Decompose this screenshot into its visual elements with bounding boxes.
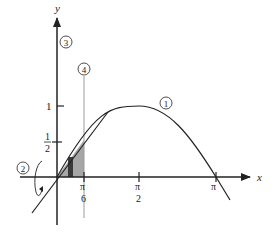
x-tick-label-pi2-den: 2 (136, 193, 141, 204)
x-tick-label-pi2-num: π (135, 181, 140, 192)
line-y-equals-x (32, 112, 108, 213)
callout-2: 2 (17, 162, 29, 174)
y-tick-label-half-num: 1 (45, 131, 50, 142)
svg-text:4: 4 (82, 65, 87, 75)
y-tick-label-1: 1 (46, 100, 52, 112)
y-tick-label-half-den: 2 (45, 143, 50, 154)
svg-text:3: 3 (64, 38, 69, 48)
x-tick-label-pi6-den: 6 (81, 193, 86, 204)
svg-text:2: 2 (21, 164, 26, 174)
diagram-svg: x y 1 1 2 π 6 π 2 π 1 2 3 4 (0, 0, 275, 235)
x-axis-label: x (256, 171, 262, 183)
x-tick-label-pi6-num: π (80, 181, 85, 192)
callout-4: 4 (78, 63, 90, 75)
y-axis-label: y (54, 2, 60, 14)
svg-text:1: 1 (164, 99, 169, 109)
rotation-arrowhead-icon (39, 186, 43, 192)
callout-1: 1 (160, 97, 172, 109)
x-tick-label-pi: π (211, 181, 216, 192)
callout-3: 3 (60, 36, 72, 48)
diagram-canvas: x y 1 1 2 π 6 π 2 π 1 2 3 4 (0, 0, 275, 235)
